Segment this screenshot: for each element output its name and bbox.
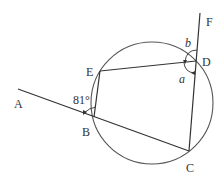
segment-E-D xyxy=(100,61,196,71)
label-E: E xyxy=(86,65,93,79)
line-C-F xyxy=(189,13,200,151)
label-angle-a: a xyxy=(179,72,185,86)
angle-arc-a xyxy=(184,63,194,73)
label-C: C xyxy=(186,161,194,175)
label-angle-81: 81° xyxy=(73,93,90,107)
label-angle-b: b xyxy=(185,36,191,50)
label-D: D xyxy=(202,55,211,69)
angle-arrow-a xyxy=(191,71,195,75)
geometry-diagram: A B C D E F 81° b a xyxy=(0,0,223,177)
line-A-C xyxy=(18,89,189,151)
label-B: B xyxy=(82,125,90,139)
circumcircle xyxy=(91,42,213,164)
label-A: A xyxy=(14,97,23,111)
label-F: F xyxy=(206,15,213,29)
